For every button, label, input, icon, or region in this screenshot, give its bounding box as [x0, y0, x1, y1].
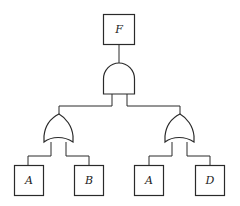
wire-right-or-to-d [187, 142, 210, 165]
connector-lines [28, 44, 210, 165]
fault-tree-diagram: F A B A D [0, 0, 240, 206]
event-box-a-right: A [135, 166, 164, 196]
wire-left-or-to-a [28, 142, 51, 165]
top-event-label: F [114, 23, 123, 36]
wire-left-or-to-b [66, 142, 89, 165]
event-label: A [144, 174, 153, 187]
or-gate-icon-right [165, 114, 194, 142]
event-label: A [24, 174, 33, 187]
or-gate-icon-left [44, 114, 73, 142]
and-gate-icon [104, 63, 135, 94]
wire-and-to-left-or [59, 94, 112, 115]
event-label: B [84, 174, 93, 187]
event-label: D [205, 174, 215, 187]
top-event-box: F [104, 15, 135, 45]
wire-right-or-to-a [149, 142, 172, 165]
event-box-d: D [196, 166, 225, 196]
event-box-a-left: A [15, 166, 44, 196]
event-box-b: B [75, 166, 104, 196]
wire-and-to-right-or [127, 94, 180, 115]
